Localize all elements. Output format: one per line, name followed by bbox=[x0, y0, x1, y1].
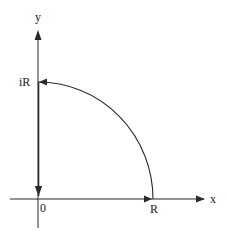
quarter-arc bbox=[38, 82, 153, 199]
arc-arrow-icon bbox=[39, 79, 47, 86]
origin-label: 0 bbox=[40, 201, 46, 215]
contour-path bbox=[35, 79, 153, 203]
x-axis-label: x bbox=[210, 192, 216, 206]
imag-segment-arrow-icon bbox=[35, 186, 42, 196]
r-label: R bbox=[150, 202, 158, 216]
y-axis-label: y bbox=[35, 10, 41, 24]
x-axis-arrow-icon bbox=[196, 196, 205, 203]
contour-diagram: x y 0 R iR bbox=[0, 0, 227, 239]
y-axis-arrow-icon bbox=[35, 30, 42, 40]
ir-label: iR bbox=[19, 75, 30, 89]
